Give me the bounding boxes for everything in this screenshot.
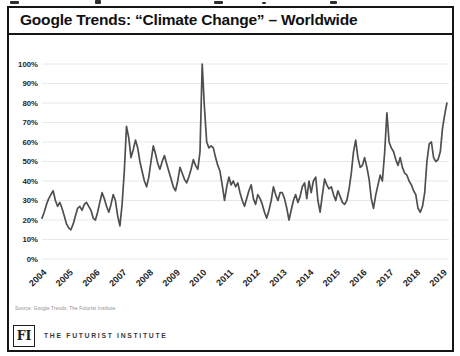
x-tick-label: 2015 [321,267,342,288]
y-tick-label: 60% [22,138,38,147]
x-tick-label: 2004 [27,267,48,288]
trend-line [42,64,447,230]
y-tick-label: 70% [22,118,38,127]
cropped-text-fragment [262,2,266,4]
x-tick-label: 2010 [187,267,208,288]
x-tick-label: 2018 [401,267,422,288]
y-tick-label: 90% [22,79,38,88]
x-tick-label: 2012 [241,267,262,288]
y-tick-label: 100% [18,60,38,69]
x-tick-label: 2006 [80,267,101,288]
cropped-text-fragment [214,1,223,4]
y-tick-label: 40% [22,177,38,186]
y-tick-label: 80% [22,99,38,108]
x-tick-label: 2013 [267,267,288,288]
x-tick-label: 2005 [54,267,75,288]
cropped-text-fragment [95,0,101,4]
trend-chart-svg: 0%10%20%30%40%50%60%70%80%90%100%2004200… [9,8,451,349]
y-tick-label: 0% [27,255,38,264]
chart-title: Google Trends: “Climate Change” – Worldw… [9,8,452,35]
x-tick-label: 2011 [214,267,235,288]
x-tick-label: 2019 [428,267,449,288]
y-tick-label: 50% [22,157,38,166]
y-tick-label: 30% [22,196,38,205]
futurist-institute-logo: FI [13,325,35,347]
x-tick-label: 2009 [161,267,182,288]
source-note: Source: Google Trends, The Futurist Inst… [15,306,116,311]
cropped-text-fragment [330,1,337,4]
y-tick-label: 10% [22,235,38,244]
x-tick-label: 2008 [134,267,155,288]
logo-row: FI THE FUTURIST INSTITUTE [13,324,168,347]
logo-caption: THE FUTURIST INSTITUTE [44,332,168,339]
slide-frame: Google Trends: “Climate Change” – Worldw… [7,6,454,352]
x-tick-label: 2014 [294,267,315,288]
y-tick-label: 20% [22,216,38,225]
x-tick-label: 2017 [374,267,395,288]
x-tick-label: 2016 [347,267,368,288]
cropped-text-fragment [10,1,19,4]
x-tick-label: 2007 [107,267,128,288]
